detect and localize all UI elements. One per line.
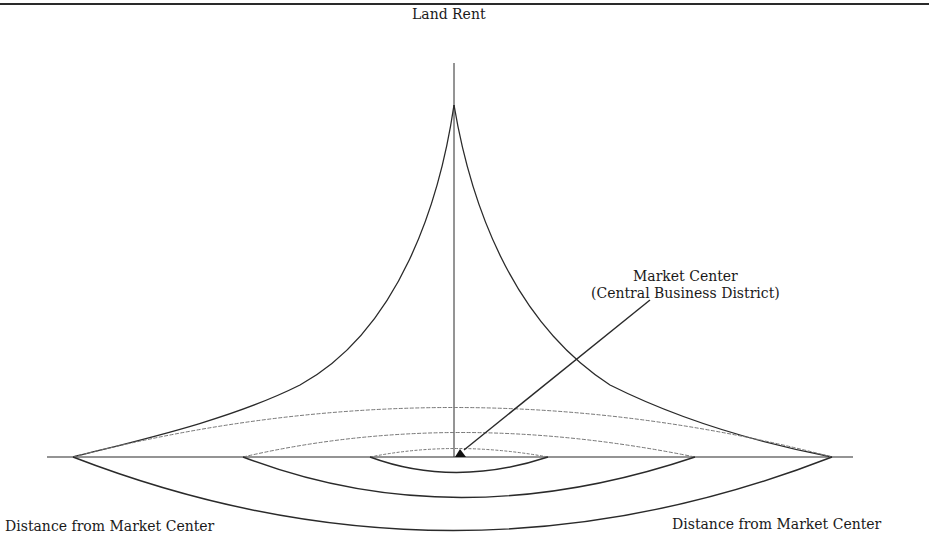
- market-center-title: Market Center: [591, 268, 780, 285]
- middle-ring-arc: [243, 457, 695, 498]
- market-center-label: Market Center (Central Business District…: [591, 268, 780, 302]
- bid-rent-diagram: [0, 0, 929, 555]
- bid-rent-curve-left: [73, 105, 454, 457]
- middle-ring-arc-dotted: [243, 433, 695, 458]
- distance-label-right: Distance from Market Center: [672, 516, 881, 533]
- distance-label-left: Distance from Market Center: [5, 518, 214, 535]
- inner-ring-arc: [370, 457, 548, 473]
- market-center-subtitle: (Central Business District): [591, 285, 780, 302]
- market-center-pointer: [464, 300, 650, 450]
- land-rent-label: Land Rent: [412, 6, 486, 23]
